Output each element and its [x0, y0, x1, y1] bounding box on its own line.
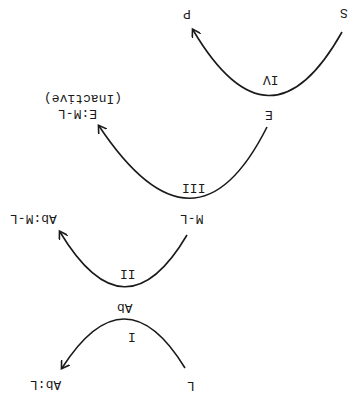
label-s: S	[340, 5, 348, 19]
label-ml: M-L	[180, 211, 203, 225]
arrow-step-i	[62, 319, 185, 368]
label-step-i: I	[128, 329, 136, 343]
label-p: P	[183, 6, 191, 20]
reaction-arrows	[0, 0, 359, 395]
label-ab: Ab	[117, 300, 133, 314]
label-e-ml: E:M-L	[58, 106, 97, 120]
label-e: E	[265, 107, 273, 121]
label-step-ii: II	[120, 266, 136, 280]
label-step-iv: IV	[263, 72, 279, 86]
label-ab-l: Ab:L	[30, 377, 61, 391]
label-ab-ml: Ab:M-L	[10, 211, 57, 225]
label-step-iii: III	[182, 180, 205, 194]
label-l: L	[187, 378, 195, 392]
label-inactive: (Inactive)	[44, 91, 122, 105]
reaction-scheme-diagram: S P IV E E:M-L (Inactive) III M-L Ab:M-L…	[0, 0, 359, 395]
